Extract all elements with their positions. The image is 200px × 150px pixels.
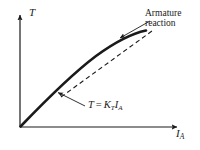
y-axis-label: T: [29, 7, 35, 19]
equation-lhs: T: [88, 99, 94, 110]
ideal-linear-dashed-line: [61, 31, 152, 97]
equation-leader-line: [58, 93, 85, 107]
y-axis-label-text: T: [29, 6, 35, 18]
equation-annotation: T=KTIA: [88, 99, 122, 113]
equation-equals: =: [94, 99, 104, 110]
torque-curve: [21, 31, 147, 127]
armature-reaction-line-1: Armature: [145, 8, 181, 18]
equation-current-subscript: A: [118, 104, 122, 112]
armature-reaction-line-2: reaction: [145, 18, 181, 28]
equation-gain: K: [104, 99, 111, 110]
x-axis-label-subscript: A: [180, 132, 185, 141]
armature-reaction-annotation: Armature reaction: [145, 8, 181, 29]
x-axis-label: IA: [176, 128, 184, 141]
figure-container: T IA T=KTIA Armature reaction: [0, 0, 200, 150]
